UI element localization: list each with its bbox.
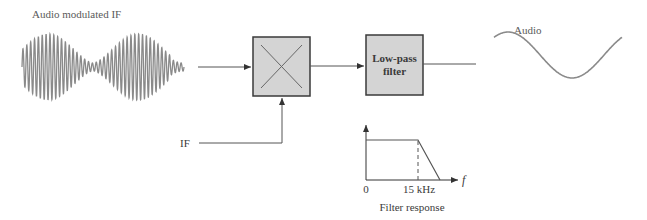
x-axis-label: f (462, 173, 467, 187)
am-waveform-icon (22, 34, 184, 100)
block-diagram: Audio modulated IF IF Low-pass filter Au… (0, 0, 647, 220)
tick-zero: 0 (363, 183, 369, 195)
filter-label-line2: filter (383, 65, 406, 77)
input-signal-label: Audio modulated IF (32, 8, 121, 20)
mixer-block (253, 37, 310, 96)
tick-cutoff: 15 kHz (403, 183, 435, 195)
response-curve (366, 140, 440, 180)
audio-sine-icon (494, 32, 622, 78)
low-pass-filter-block: Low-pass filter (366, 35, 423, 95)
filter-label-line1: Low-pass (372, 52, 417, 64)
if-input-arrow (199, 98, 282, 143)
if-input-label: IF (180, 137, 190, 149)
filter-response-caption: Filter response (379, 201, 444, 213)
filter-response-graph: 0 15 kHz f Filter response (363, 125, 467, 213)
